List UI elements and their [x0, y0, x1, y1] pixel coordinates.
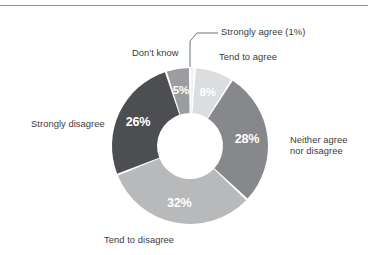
- donut-value-label: 28%: [235, 132, 260, 146]
- slice-label-neither-line2: nor disagree: [290, 145, 343, 156]
- slice-label-neither-line1: Neither agree: [290, 134, 347, 145]
- slice-label-strongly-disagree: Strongly disagree: [31, 118, 105, 129]
- slice-label-tend-to-agree: Tend to agree: [219, 51, 277, 62]
- slice-label-tend-to-disagree: Tend to disagree: [104, 234, 174, 245]
- donut-chart-figure: 8%28%32%26%5% Strongly agree (1%) Tend t…: [0, 0, 368, 255]
- slice-label-neither-agree-nor-disagree: Neither agreenor disagree: [290, 134, 364, 157]
- donut-value-label: 5%: [173, 83, 189, 96]
- slice-label-strongly-agree: Strongly agree (1%): [221, 26, 305, 37]
- donut-value-label: 26%: [126, 115, 151, 129]
- donut-value-label: 8%: [200, 85, 216, 98]
- strongly-agree-leader-line-elbow: [190, 33, 197, 41]
- donut-value-label: 32%: [167, 196, 192, 210]
- slice-label-dont-know: Don't know: [132, 47, 179, 58]
